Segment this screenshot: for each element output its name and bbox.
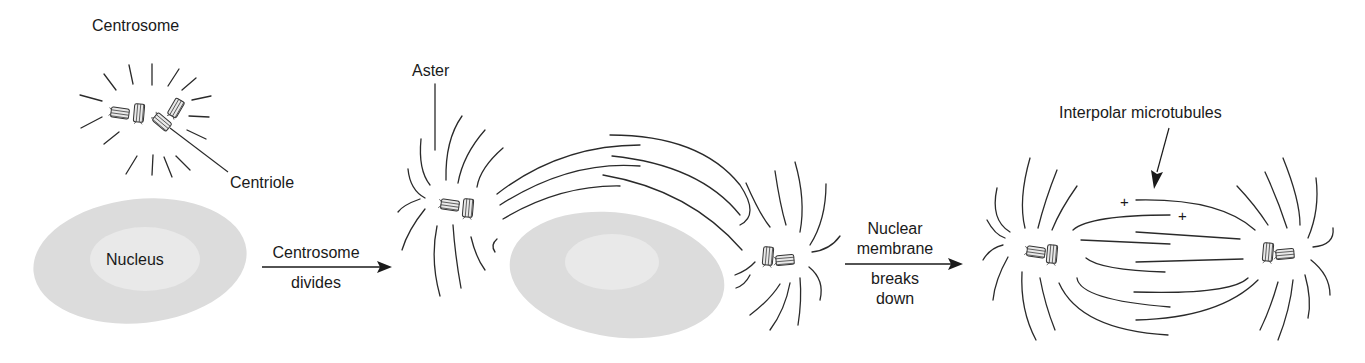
stage-3-right-aster [1237, 158, 1333, 340]
stage-1-centrosome [80, 64, 228, 177]
label-centrosome: Centrosome [92, 17, 179, 35]
label-aster: Aster [412, 62, 449, 80]
label-interpolar-microtubules: Interpolar microtubules [1059, 104, 1222, 122]
diagram-artwork [0, 0, 1365, 363]
stage-3-interpolar-microtubules [1024, 200, 1258, 335]
stage-2-nucleus [501, 199, 732, 352]
label-centriole: Centriole [230, 174, 294, 192]
transition-2-line2: membrane [840, 240, 950, 258]
arrow-membrane-breaks-down [845, 258, 963, 270]
interpolar-pointer [1151, 128, 1169, 189]
arrow-centrosome-divides [262, 261, 392, 273]
mitosis-diagram: Centrosome Centriole Nucleus Centrosome … [0, 0, 1365, 363]
transition-2-line4: down [840, 290, 950, 308]
transition-2-line3: breaks [840, 270, 950, 288]
transition-1-line2: divides [258, 274, 374, 292]
plus-end-marker-2: + [1178, 208, 1187, 223]
plus-end-marker-1: + [1120, 194, 1129, 209]
transition-1-line1: Centrosome [258, 244, 374, 262]
label-nucleus: Nucleus [106, 251, 164, 269]
stage-2-aster-right [735, 162, 840, 330]
centriole-pointer [170, 128, 228, 172]
stage-2-aster-left [398, 84, 503, 296]
transition-2-line1: Nuclear [840, 220, 950, 238]
